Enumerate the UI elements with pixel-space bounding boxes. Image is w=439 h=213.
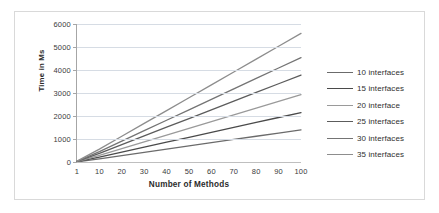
series-line [77, 33, 301, 161]
y-axis-tick-label: 6000 [23, 20, 71, 29]
chart-container: Time in Ms 6000500040003000200010000 110… [14, 11, 425, 200]
legend-item[interactable]: 35 interfaces [327, 147, 435, 164]
x-axis-tick-label: 100 [294, 167, 307, 176]
gridline [77, 70, 301, 71]
legend-item[interactable]: 15 interfaces [327, 81, 435, 98]
legend-label: 30 interfaces [357, 134, 404, 143]
y-axis-tick-label: 5000 [23, 43, 71, 52]
legend-item[interactable]: 10 interfaces [327, 64, 435, 81]
x-axis-tick-label: 60 [207, 167, 216, 176]
y-axis-tick [73, 24, 77, 25]
y-axis-tick-labels: 6000500040003000200010000 [15, 24, 71, 163]
gridline [77, 162, 301, 163]
legend-label: 10 interfaces [357, 68, 404, 77]
y-axis-tick-label: 4000 [23, 66, 71, 75]
gridline [77, 47, 301, 48]
legend-item[interactable]: 25 interfaces [327, 114, 435, 131]
legend-swatch-line-icon [327, 154, 353, 155]
y-axis-tick [73, 93, 77, 94]
y-axis-tick-label: 0 [23, 158, 71, 167]
x-axis-tick-labels: 1102030405060708090100 [77, 167, 301, 179]
chart-legend: 10 interfaces15 interfaces20 interface25… [327, 64, 435, 163]
legend-label: 35 interfaces [357, 150, 404, 159]
x-axis-tick-label: 40 [162, 167, 171, 176]
series-line [77, 95, 301, 162]
plot-area [77, 24, 301, 162]
x-axis-tick-label: 10 [95, 167, 104, 176]
x-axis-tick-label: 30 [140, 167, 149, 176]
legend-swatch-line-icon [327, 105, 353, 106]
gridline [77, 116, 301, 117]
legend-item[interactable]: 30 interfaces [327, 130, 435, 147]
legend-swatch-line-icon [327, 138, 353, 139]
x-axis-tick-label: 90 [274, 167, 283, 176]
x-axis-tick-label: 80 [252, 167, 261, 176]
x-axis-tick-label: 70 [229, 167, 238, 176]
series-line [77, 113, 301, 162]
y-axis-tick [73, 116, 77, 117]
y-axis-tick-label: 3000 [23, 89, 71, 98]
y-axis-tick-label: 2000 [23, 112, 71, 121]
y-axis-tick-label: 1000 [23, 135, 71, 144]
x-axis-tick-label: 50 [185, 167, 194, 176]
y-axis-tick [73, 70, 77, 71]
y-axis-tick [73, 162, 77, 163]
gridline [77, 24, 301, 25]
y-axis-tick [73, 47, 77, 48]
legend-swatch-line-icon [327, 121, 353, 122]
x-axis-tick-label: 20 [117, 167, 126, 176]
gridline [77, 139, 301, 140]
gridline [77, 93, 301, 94]
x-axis-title: Number of Methods [77, 180, 301, 189]
legend-swatch-line-icon [327, 72, 353, 73]
legend-label: 25 interfaces [357, 117, 404, 126]
y-axis-tick [73, 139, 77, 140]
legend-label: 15 interfaces [357, 84, 404, 93]
series-line [77, 75, 301, 161]
legend-item[interactable]: 20 interface [327, 97, 435, 114]
x-axis-tick-label: 1 [75, 167, 79, 176]
legend-label: 20 interface [357, 101, 400, 110]
legend-swatch-line-icon [327, 88, 353, 89]
